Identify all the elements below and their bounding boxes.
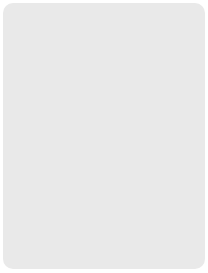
xiangqi-board[interactable]	[0, 0, 208, 273]
